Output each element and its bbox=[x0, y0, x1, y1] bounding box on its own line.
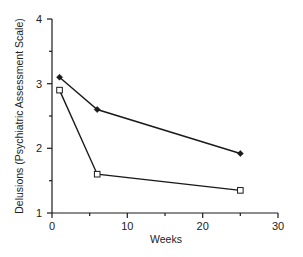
diamond-marker bbox=[237, 151, 243, 157]
x-tick-label: 20 bbox=[197, 220, 209, 232]
x-tick-label: 30 bbox=[272, 220, 284, 232]
square-marker bbox=[94, 171, 100, 177]
x-tick-label: 0 bbox=[49, 220, 55, 232]
y-tick-label: 1 bbox=[36, 207, 42, 219]
y-tick-label: 4 bbox=[36, 13, 42, 25]
y-axis-title: Delusions (Psychiatric Assessment Scale) bbox=[13, 18, 25, 214]
x-axis-title: Weeks bbox=[150, 233, 182, 245]
x-tick-label: 10 bbox=[121, 220, 133, 232]
y-tick-label: 3 bbox=[36, 78, 42, 90]
square-marker bbox=[238, 188, 244, 194]
series-line bbox=[60, 77, 241, 153]
series-line bbox=[60, 90, 241, 190]
square-marker bbox=[57, 87, 63, 93]
y-tick-label: 2 bbox=[36, 142, 42, 154]
series-layer bbox=[57, 74, 244, 193]
chart-canvas: 4 3 2 1 0 10 20 30 Weeks Delusions (Psyc… bbox=[0, 0, 303, 257]
series-square bbox=[57, 87, 243, 193]
series-diamond bbox=[57, 74, 244, 156]
